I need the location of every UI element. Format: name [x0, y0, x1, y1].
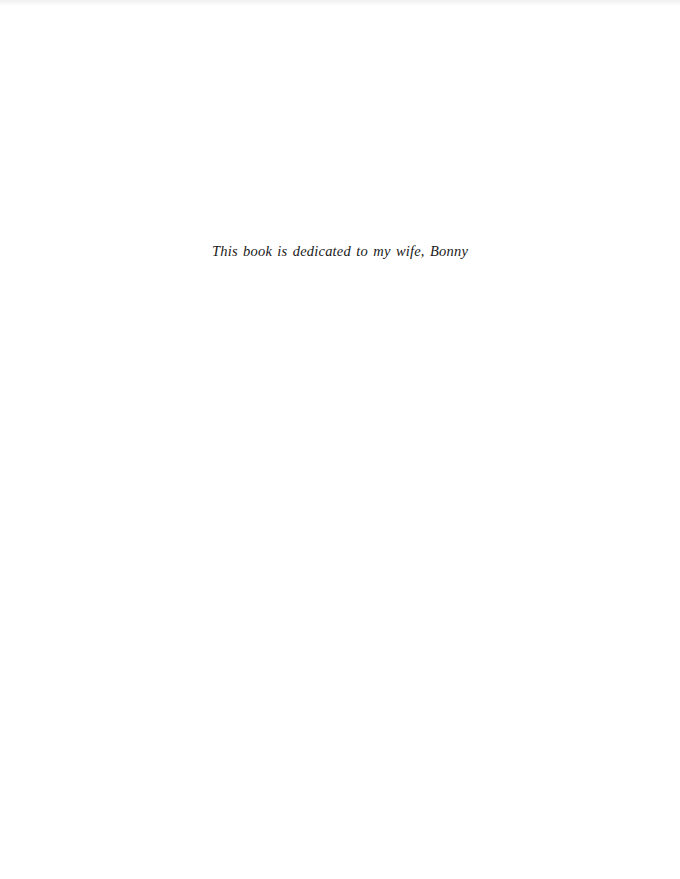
book-page: This book is dedicated to my wife, Bonny	[0, 0, 680, 879]
scan-edge-shade	[0, 0, 680, 6]
dedication-text: This book is dedicated to my wife, Bonny	[0, 243, 680, 260]
